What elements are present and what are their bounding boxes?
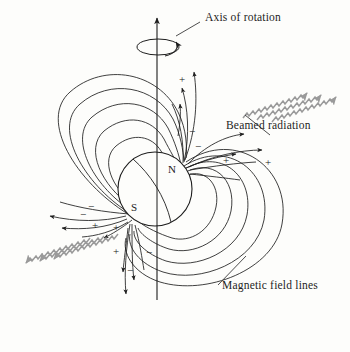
open-line-n-3 <box>172 104 183 163</box>
charge-sign-plus-4: + <box>265 157 271 168</box>
pole-label-south: S <box>131 201 137 213</box>
charge-sign-minus-11: − <box>127 265 133 276</box>
pulsar-diagram: Axis of rotation Beamed radiation Magnet… <box>0 0 350 352</box>
axis-label-leader <box>176 22 200 36</box>
charge-sign-plus-7: + <box>92 220 98 231</box>
charge-sign-minus-5: − <box>88 201 94 212</box>
beam-ray-ll-3 <box>26 238 90 263</box>
charge-sign-plus-9: + <box>113 246 119 257</box>
pole-label-north: N <box>168 163 176 175</box>
charge-sign-minus-10: − <box>146 247 152 258</box>
beam-ray-ll-2 <box>40 236 104 261</box>
diagram-canvas <box>0 0 350 352</box>
charge-sign-plus-3: + <box>223 155 229 166</box>
beam-upper-right-group <box>243 93 336 122</box>
label-axis-of-rotation: Axis of rotation <box>205 11 281 23</box>
open-line-s-1 <box>50 216 126 221</box>
charge-sign-minus-6: − <box>80 209 86 220</box>
charge-sign-plus-0: + <box>179 74 185 85</box>
beam-ray-ll-1 <box>54 234 118 259</box>
neutron-star-group <box>118 152 192 226</box>
neutron-star-body <box>118 152 192 226</box>
charge-sign-minus-1: − <box>189 126 195 137</box>
label-magnetic-field-lines: Magnetic field lines <box>222 279 318 291</box>
charge-sign-plus-8: + <box>113 222 119 233</box>
open-line-n-7 <box>190 174 240 180</box>
open-line-s-3 <box>82 222 128 237</box>
label-beamed-radiation: Beamed radiation <box>226 119 311 131</box>
charge-sign-minus-2: − <box>195 141 201 152</box>
